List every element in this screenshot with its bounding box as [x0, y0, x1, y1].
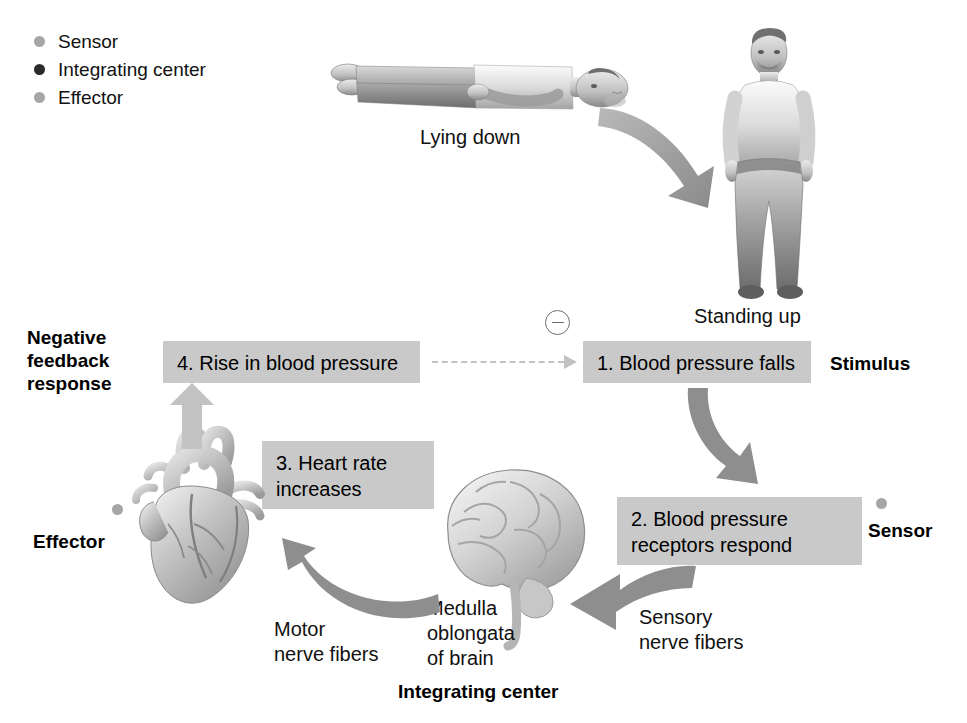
heart-illustration: [128, 428, 276, 614]
person-standing-up-illustration: [707, 28, 829, 300]
effector-marker-dot-icon: [112, 504, 123, 515]
label-effector: Effector: [33, 530, 143, 553]
label-stimulus: Stimulus: [830, 352, 950, 375]
label-motor-nerve-fibers: Motor nerve fibers: [274, 617, 434, 667]
dashed-arrow-feedback: [432, 355, 580, 369]
legend-item-effector: Effector: [34, 84, 294, 110]
label-standing-up: Standing up: [694, 304, 864, 329]
figure-canvas: Sensor Integrating center Effector: [0, 0, 967, 723]
person-lying-down-illustration: [326, 56, 632, 122]
label-lying-down: Lying down: [420, 125, 570, 150]
label-sensor: Sensor: [868, 519, 967, 542]
legend-label-effector: Effector: [58, 88, 123, 107]
dashed-arrow-head-icon: [564, 355, 577, 369]
label-negative-feedback-response: Negative feedback response: [27, 326, 147, 395]
effector-dot-icon: [34, 92, 45, 103]
legend-label-sensor: Sensor: [58, 32, 118, 51]
arrow-heart-to-step4: [166, 383, 220, 451]
sensor-marker-dot-icon: [876, 498, 887, 509]
label-integrating-center: Integrating center: [398, 680, 618, 703]
minus-bar-icon: [552, 322, 564, 324]
step-box-4: 4. Rise in blood pressure: [163, 341, 420, 383]
step-box-3: 3. Heart rate increases: [262, 441, 434, 509]
legend-item-sensor: Sensor: [34, 28, 294, 54]
sensor-dot-icon: [34, 36, 45, 47]
step-box-2: 2. Blood pressure receptors respond: [617, 497, 862, 565]
negative-feedback-minus-icon: [545, 310, 570, 335]
label-sensory-nerve-fibers: Sensory nerve fibers: [639, 605, 799, 655]
arrow-step1-to-step2: [680, 386, 800, 496]
legend-label-integrating-center: Integrating center: [58, 60, 206, 79]
legend: Sensor Integrating center Effector: [34, 28, 294, 112]
integrating-center-dot-icon: [34, 64, 45, 75]
step-box-1: 1. Blood pressure falls: [583, 341, 811, 383]
dashed-arrow-line: [432, 361, 564, 363]
legend-item-integrating-center: Integrating center: [34, 56, 294, 82]
